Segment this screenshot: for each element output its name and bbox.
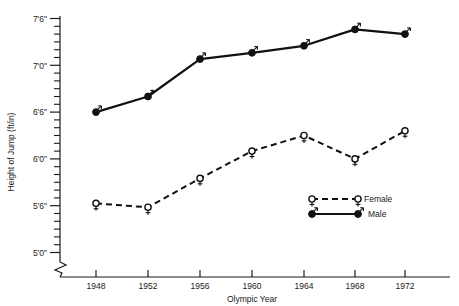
- x-tick-label-1948: 1948: [87, 281, 106, 291]
- data-point[interactable]: [145, 204, 151, 215]
- data-point[interactable]: [197, 175, 203, 186]
- y-tick-label-7ft0in: 7'0": [33, 61, 47, 71]
- legend-male-marker-right: [355, 208, 364, 218]
- x-axis-tick-labels: 1948 1952 1956 1960 1964 1968 1972: [87, 281, 415, 291]
- y-axis-tick-labels: 7'6" 7'0" 6'6" 6'0" 5'6" 5'0": [33, 14, 47, 258]
- data-point[interactable]: [402, 128, 408, 138]
- data-point[interactable]: [402, 28, 411, 38]
- y-axis: 7'6" 7'0" 6'6" 6'0" 5'6" 5'0" Height of …: [6, 14, 66, 277]
- series-line-male: [96, 29, 405, 112]
- data-point[interactable]: [352, 23, 361, 33]
- legend-female-marker-left: [309, 196, 315, 207]
- y-tick-label-5ft6in: 5'6": [33, 201, 47, 211]
- jump-height-line-chart: 7'6" 7'0" 6'6" 6'0" 5'6" 5'0" Height of …: [0, 0, 459, 306]
- data-series-layer: [93, 23, 411, 214]
- series-male: [93, 23, 411, 115]
- y-tick-label-5ft0in: 5'0": [33, 248, 47, 258]
- y-tick-label-7ft6in: 7'6": [33, 14, 47, 24]
- x-axis-ticks: [96, 270, 405, 277]
- x-tick-label-1960: 1960: [243, 281, 262, 291]
- legend-entry-female[interactable]: Female: [309, 194, 393, 206]
- legend-entry-male[interactable]: Male: [309, 208, 387, 220]
- series-female: [93, 128, 408, 215]
- y-tick-label-6ft6in: 6'6": [33, 107, 47, 117]
- legend-label-male: Male: [368, 209, 387, 219]
- data-point[interactable]: [352, 156, 358, 167]
- y-tick-label-6ft0in: 6'0": [33, 154, 47, 164]
- y-axis-break-icon: [55, 256, 66, 277]
- x-axis: 1948 1952 1956 1960 1964 1968 1972 Olymp…: [60, 270, 450, 304]
- data-point[interactable]: [145, 90, 154, 100]
- data-point[interactable]: [249, 148, 255, 159]
- y-axis-minor-ticks: [54, 26, 60, 244]
- data-point[interactable]: [93, 200, 99, 211]
- legend: Female Male: [309, 194, 393, 219]
- x-tick-label-1972: 1972: [396, 281, 415, 291]
- chart-canvas: 7'6" 7'0" 6'6" 6'0" 5'6" 5'0" Height of …: [0, 0, 459, 306]
- x-axis-title: Olympic Year: [227, 294, 277, 304]
- legend-label-female: Female: [364, 194, 393, 204]
- y-axis-title: Height of Jump (ft/in): [6, 112, 16, 191]
- legend-male-marker-left: [309, 208, 318, 218]
- x-tick-label-1968: 1968: [346, 281, 365, 291]
- x-tick-label-1964: 1964: [295, 281, 314, 291]
- data-point[interactable]: [301, 132, 307, 143]
- legend-female-marker-right: [355, 196, 361, 207]
- x-tick-label-1956: 1956: [191, 281, 210, 291]
- x-tick-label-1952: 1952: [139, 281, 158, 291]
